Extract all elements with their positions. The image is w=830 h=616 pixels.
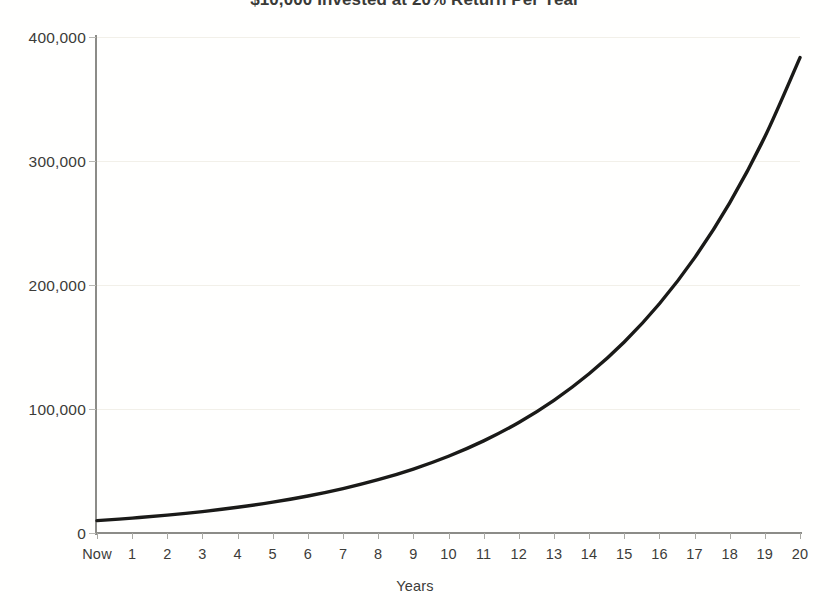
x-axis-label: 20	[792, 546, 809, 562]
x-axis-label: 18	[721, 546, 738, 562]
gridline-300000	[97, 161, 800, 162]
y-axis-label: 300,000	[4, 153, 86, 171]
x-axis-label: 10	[440, 546, 457, 562]
x-tick-mark	[343, 533, 344, 539]
x-axis-label: 14	[581, 546, 598, 562]
y-axis-label: 400,000	[4, 29, 86, 47]
x-tick-mark	[167, 533, 168, 539]
x-tick-mark	[484, 533, 485, 539]
gridline-400000	[97, 37, 800, 38]
x-axis-label: Now	[82, 546, 112, 562]
x-axis-label: 6	[304, 546, 312, 562]
x-tick-mark	[132, 533, 133, 539]
x-tick-mark	[413, 533, 414, 539]
y-tick-mark	[89, 285, 96, 286]
x-axis-label: 12	[511, 546, 528, 562]
x-tick-mark	[554, 533, 555, 539]
x-axis-label: 17	[686, 546, 703, 562]
x-axis-label: 19	[757, 546, 774, 562]
x-tick-mark	[765, 533, 766, 539]
y-tick-mark	[89, 533, 96, 534]
y-axis-label: 200,000	[4, 277, 86, 295]
x-tick-mark	[378, 533, 379, 539]
chart-title: $10,000 Invested at 20% Return Per Year	[0, 0, 830, 12]
x-tick-mark	[238, 533, 239, 539]
x-axis-label: 5	[269, 546, 277, 562]
x-tick-mark	[730, 533, 731, 539]
x-axis-label: 3	[198, 546, 206, 562]
gridline-200000	[97, 285, 800, 286]
y-axis-label: 0	[4, 525, 86, 543]
x-tick-mark	[624, 533, 625, 539]
x-axis-title: Years	[0, 578, 830, 594]
x-axis-label: 4	[233, 546, 241, 562]
x-tick-mark	[589, 533, 590, 539]
x-tick-mark	[519, 533, 520, 539]
y-axis-label: 100,000	[4, 401, 86, 419]
x-axis-label: 15	[616, 546, 633, 562]
x-tick-mark	[800, 533, 801, 539]
x-axis-label: 8	[374, 546, 382, 562]
x-tick-mark	[449, 533, 450, 539]
x-tick-mark	[97, 533, 98, 539]
x-axis-label: 9	[409, 546, 417, 562]
y-axis-labels: 400,000 300,000 200,000 100,000 0	[0, 0, 86, 616]
x-axis-label: 13	[546, 546, 563, 562]
x-axis-label: 1	[128, 546, 136, 562]
chart-container: $10,000 Invested at 20% Return Per Year …	[0, 0, 830, 616]
plot-area	[97, 37, 800, 533]
x-axis-label: 16	[651, 546, 668, 562]
y-tick-mark	[89, 37, 96, 38]
x-tick-mark	[308, 533, 309, 539]
y-tick-mark	[89, 409, 96, 410]
y-tick-mark	[89, 161, 96, 162]
x-tick-mark	[202, 533, 203, 539]
x-tick-mark	[695, 533, 696, 539]
x-axis-label: 2	[163, 546, 171, 562]
x-tick-mark	[659, 533, 660, 539]
x-tick-mark	[273, 533, 274, 539]
x-axis-label: 7	[339, 546, 347, 562]
gridline-100000	[97, 409, 800, 410]
x-axis-label: 11	[476, 546, 491, 562]
